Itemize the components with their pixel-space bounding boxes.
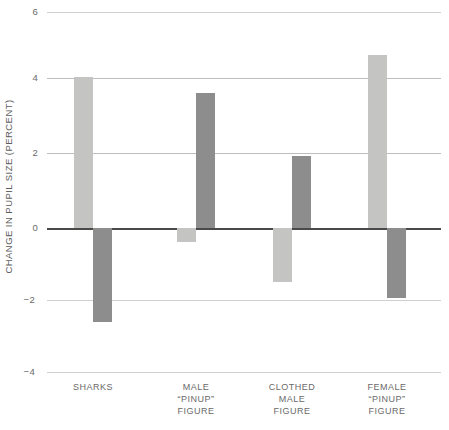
bar-male-pinup-figure-light — [177, 228, 196, 242]
ytick-label-2: 2 — [4, 147, 38, 158]
plot-area: 6 4 2 0 −2 −4 SHARKS MALE “PINUP” FIGURE — [0, 0, 449, 430]
category-label-sharks-line1: SHARKS — [33, 381, 153, 393]
gridline-neg4 — [47, 372, 441, 373]
bar-clothed-male-figure-light — [273, 228, 292, 282]
ytick-label-4: 4 — [4, 72, 38, 83]
ytick-label-6: 6 — [4, 6, 38, 17]
bar-female-pinup-figure-light — [368, 55, 387, 228]
category-label-female-pinup-figure-line3: FIGURE — [327, 405, 447, 417]
ytick-label-neg2: −2 — [1, 294, 35, 305]
bar-sharks-dark — [93, 228, 112, 322]
bar-male-pinup-figure-dark — [196, 93, 215, 228]
category-label-female-pinup-figure-line1: FEMALE — [327, 381, 447, 393]
ytick-label-neg4: −4 — [1, 366, 35, 377]
category-label-female-pinup-figure: FEMALE “PINUP” FIGURE — [327, 381, 447, 418]
pupil-size-bar-chart: CHANGE IN PUPIL SIZE (PERCENT) 6 4 2 0 −… — [0, 0, 449, 430]
bar-clothed-male-figure-dark — [292, 156, 311, 228]
bar-female-pinup-figure-dark — [387, 228, 406, 298]
ytick-label-0: 0 — [4, 222, 38, 233]
gridline-6 — [47, 12, 441, 13]
bar-sharks-light — [74, 77, 93, 228]
category-label-female-pinup-figure-line2: “PINUP” — [327, 393, 447, 405]
category-label-sharks: SHARKS — [33, 381, 153, 393]
